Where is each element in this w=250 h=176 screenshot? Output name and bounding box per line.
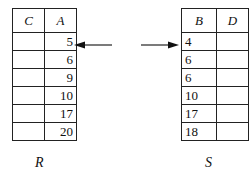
column-header-a: A	[45, 9, 77, 33]
column-header-b: B	[182, 9, 217, 33]
cell	[13, 51, 45, 69]
cell: 18	[182, 123, 217, 141]
column-header-d: D	[217, 9, 249, 33]
relation-s-label: S	[205, 155, 212, 171]
table-row: 17	[182, 105, 249, 123]
cell: 10	[182, 87, 217, 105]
cell	[13, 87, 45, 105]
cell: 10	[45, 87, 77, 105]
cell: 6	[182, 69, 217, 87]
cell: 17	[182, 105, 217, 123]
table-row: 17	[13, 105, 77, 123]
relation-r-label: R	[35, 155, 44, 171]
cell: 20	[45, 123, 77, 141]
cell	[13, 105, 45, 123]
cell	[217, 69, 249, 87]
column-header-c: C	[13, 9, 45, 33]
left-arrow-icon	[74, 40, 114, 50]
cell	[217, 123, 249, 141]
cell: 9	[45, 69, 77, 87]
cell: 4	[182, 33, 217, 51]
cell	[13, 69, 45, 87]
relation-r-table: C A 5 6 9 10 17 20	[12, 8, 77, 141]
cell: 17	[45, 105, 77, 123]
table-row: 6	[13, 51, 77, 69]
table-row: 10	[13, 87, 77, 105]
cell	[217, 87, 249, 105]
cell: 6	[182, 51, 217, 69]
relation-s-table: B D 4 6 6 10 17 18	[181, 8, 249, 141]
right-arrow-icon	[139, 40, 179, 50]
table-row: 6	[182, 69, 249, 87]
table-row: 9	[13, 69, 77, 87]
cell: 6	[45, 51, 77, 69]
cell	[13, 33, 45, 51]
cell	[217, 33, 249, 51]
cell	[13, 123, 45, 141]
table-row: 6	[182, 51, 249, 69]
cell	[217, 105, 249, 123]
cell	[217, 51, 249, 69]
table-row: 10	[182, 87, 249, 105]
table-row: 20	[13, 123, 77, 141]
table-row: 4	[182, 33, 249, 51]
cell: 5	[45, 33, 77, 51]
table-row: 5	[13, 33, 77, 51]
table-row: 18	[182, 123, 249, 141]
